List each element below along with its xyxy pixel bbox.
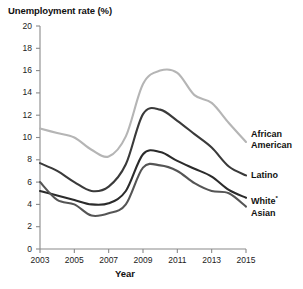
y-axis-tick-label: 20 xyxy=(10,21,32,31)
y-axis-tick-label: 10 xyxy=(10,132,32,142)
y-axis-tick-label: 6 xyxy=(10,177,32,187)
y-axis-tick-label: 16 xyxy=(10,65,32,75)
x-axis-tick-label: 2011 xyxy=(160,255,194,265)
series-label-african-american-line1: African xyxy=(251,129,282,139)
y-axis-tick-label: 18 xyxy=(10,43,32,53)
series-label-latino: Latino xyxy=(251,170,278,181)
chart-axes xyxy=(40,26,246,249)
series-label-white-text: White xyxy=(251,196,276,206)
series-label-white-footnote-marker: * xyxy=(276,195,278,201)
x-axis-tick-label: 2003 xyxy=(23,255,57,265)
series-label-latino-text: Latino xyxy=(251,170,278,180)
series-label-white: White* xyxy=(251,193,278,207)
y-axis-tick-label: 0 xyxy=(10,244,32,254)
x-axis-ticks xyxy=(40,249,246,253)
y-axis-tick-label: 2 xyxy=(10,221,32,231)
y-axis-tick-label: 4 xyxy=(10,199,32,209)
series-label-asian-text: Asian xyxy=(251,208,276,218)
x-axis-tick-label: 2007 xyxy=(92,255,126,265)
series-line-asian xyxy=(40,164,246,216)
unemployment-rate-line-chart: Unemployment rate (%) 02468101214161820 … xyxy=(0,0,303,289)
series-label-asian: Asian xyxy=(251,208,276,219)
chart-series-lines xyxy=(40,69,246,216)
x-axis-tick-label: 2013 xyxy=(195,255,229,265)
x-axis-tick-label: 2009 xyxy=(126,255,160,265)
x-axis-tick-label: 2015 xyxy=(229,255,263,265)
y-axis-ticks xyxy=(36,26,40,249)
y-axis-tick-label: 12 xyxy=(10,110,32,120)
series-line-white xyxy=(40,150,246,205)
y-axis-tick-label: 8 xyxy=(10,154,32,164)
x-axis-tick-label: 2005 xyxy=(57,255,91,265)
x-axis-title: Year xyxy=(0,268,250,279)
y-axis-tick-label: 14 xyxy=(10,87,32,97)
series-label-african-american: African American xyxy=(251,129,292,150)
series-label-african-american-line2: American xyxy=(251,140,292,150)
